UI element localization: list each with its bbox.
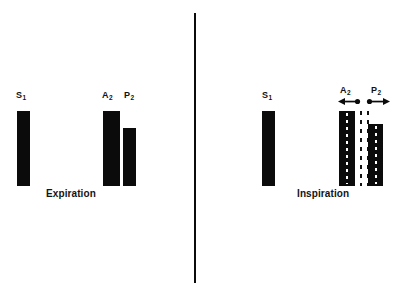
bar-s1-expiration (17, 111, 30, 186)
split-arrow-icon (338, 96, 390, 107)
panel-expiration: S1 A2 P2 Expiration (0, 0, 192, 292)
caption-inspiration: Inspiration (297, 188, 349, 199)
label-a2-inspiration: A2 (340, 85, 351, 95)
bar-a2-expiration (103, 111, 120, 186)
label-p2-inspiration: P2 (371, 85, 381, 95)
dashed-reference-line-a2 (360, 111, 362, 186)
bar-s1-inspiration (262, 111, 275, 186)
bar-a2-inspiration (339, 111, 355, 186)
label-a2-expiration: A2 (102, 90, 113, 100)
caption-expiration: Expiration (46, 188, 96, 199)
label-p2-expiration: P2 (124, 90, 134, 100)
label-s1-inspiration: S1 (262, 90, 272, 100)
panel-inspiration: S1 A2 P2 Inspiration (201, 0, 393, 292)
figure-canvas: S1 A2 P2 Expiration S1 A2 P2 (0, 0, 393, 292)
bar-p2-inspiration (368, 124, 383, 186)
split-arrows-inspiration (338, 96, 390, 107)
label-s1-expiration: S1 (16, 90, 26, 100)
panel-divider (194, 13, 196, 283)
bar-p2-expiration (123, 128, 136, 186)
